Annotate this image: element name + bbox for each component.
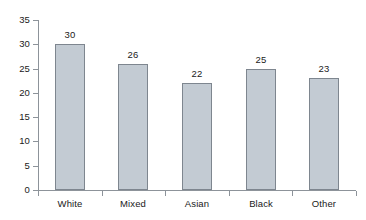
y-tick-label: 25 (6, 64, 30, 74)
x-tick-mark (102, 191, 103, 196)
bar-value-label: 22 (167, 69, 227, 79)
y-tick-mark (33, 93, 38, 94)
plot-area: 05101520253035 30White26Mixed22Asian25Bl… (0, 0, 366, 220)
bar-value-label: 23 (294, 64, 354, 74)
bar (309, 78, 339, 190)
bar (182, 83, 212, 190)
x-tick-mark (356, 191, 357, 196)
bar-value-label: 25 (231, 55, 291, 65)
bar (55, 44, 85, 190)
y-tick-label: 15 (6, 112, 30, 122)
y-tick-mark (33, 69, 38, 70)
x-category-label: Mixed (103, 199, 163, 209)
x-tick-mark (292, 191, 293, 196)
x-tick-mark (38, 191, 39, 196)
x-category-label: Black (231, 199, 291, 209)
y-tick-mark (33, 117, 38, 118)
x-category-label: Asian (167, 199, 227, 209)
y-tick-mark (33, 20, 38, 21)
y-tick-label: 35 (6, 15, 30, 25)
y-tick-label: 30 (6, 39, 30, 49)
y-tick-label: 0 (6, 185, 30, 195)
y-tick-mark (33, 44, 38, 45)
y-tick-label: 10 (6, 136, 30, 146)
bar-value-label: 30 (40, 30, 100, 40)
bar (246, 69, 276, 190)
y-tick-label: 20 (6, 88, 30, 98)
y-axis-line (38, 20, 39, 191)
x-axis-line (38, 190, 356, 191)
y-tick-label: 5 (6, 161, 30, 171)
y-tick-mark (33, 141, 38, 142)
y-tick-mark (33, 166, 38, 167)
bar-chart: 05101520253035 30White26Mixed22Asian25Bl… (0, 0, 366, 220)
x-tick-mark (165, 191, 166, 196)
bar-value-label: 26 (103, 50, 163, 60)
x-category-label: Other (294, 199, 354, 209)
x-tick-mark (229, 191, 230, 196)
x-category-label: White (40, 199, 100, 209)
bar (118, 64, 148, 190)
